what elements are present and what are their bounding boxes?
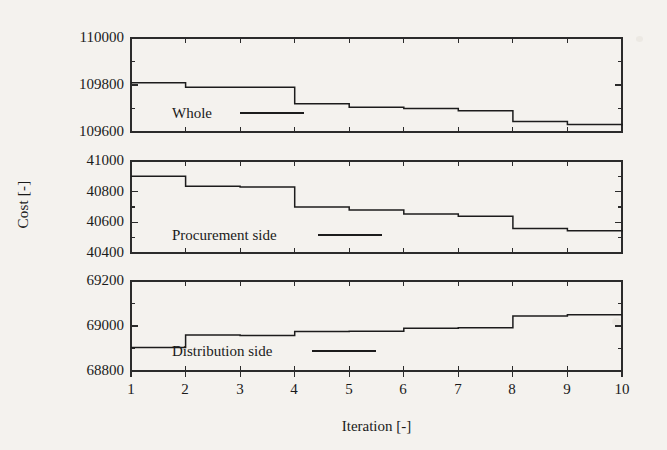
figure-canvas: Cost [-] 110000 109800 109600 41000 4080…: [0, 0, 667, 450]
panel-frame-distribution: [131, 281, 622, 371]
panel-frame-whole: [131, 38, 622, 132]
plot-svg: [0, 0, 667, 450]
series-line-whole: [131, 83, 622, 126]
series-line-procurement-side: [131, 176, 622, 231]
series-line-distribution-side: [131, 315, 622, 348]
panel-frame-procurement: [131, 161, 622, 253]
